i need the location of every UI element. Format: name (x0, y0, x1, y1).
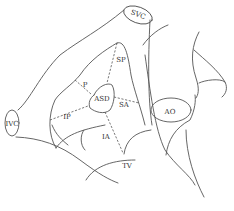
label-ip: IP (63, 113, 71, 121)
label-ao: AO (164, 108, 176, 116)
tv-curve (124, 130, 151, 154)
label-sa: SA (119, 101, 130, 109)
label-sp: SP (116, 56, 126, 64)
label-tv: TV (122, 162, 133, 170)
ao-root-curve (166, 95, 195, 155)
septum-lower-curve-3 (81, 130, 85, 150)
label-ia: IA (102, 133, 111, 141)
ao-left-wall (145, 55, 195, 185)
septum-lower-curve-2 (52, 125, 68, 145)
pa-left-wall (192, 32, 199, 98)
heart-diagram: SVC IVC SP P ASD SA IP IA TV AO (0, 0, 234, 211)
pa-rim (199, 80, 226, 97)
ao-outer-curve (143, 25, 168, 45)
label-svc: SVC (130, 8, 147, 21)
ao-right-wall (186, 130, 204, 197)
pa-diagonal (194, 50, 225, 82)
septum-lower-curve-1 (56, 125, 105, 148)
label-p: P (83, 81, 88, 89)
label-asd: ASD (93, 95, 110, 103)
label-ivc: IVC (5, 120, 18, 128)
